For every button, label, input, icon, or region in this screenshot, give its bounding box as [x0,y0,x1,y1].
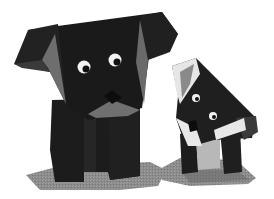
large-origami-dog [14,12,178,182]
origami-dogs-photo [0,0,274,199]
small-dog-right-eye [209,112,217,120]
small-dog-left-eye [192,94,200,102]
large-dog-right-eye [109,54,122,67]
large-dog-head [14,12,178,120]
large-dog-left-eye [78,61,91,74]
small-origami-dog [172,58,258,174]
small-dog-head [172,58,258,148]
